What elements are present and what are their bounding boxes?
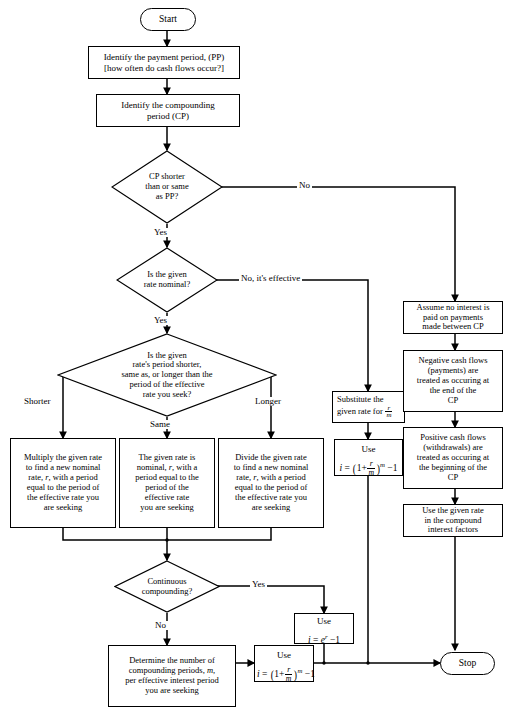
d1-line2: than or same xyxy=(145,181,188,191)
divide-line1: Divide the given rate xyxy=(235,452,307,462)
same-line6: you are seeking xyxy=(140,502,193,512)
use-label-right: Use xyxy=(362,444,376,454)
substitute-line2: given rate for rm xyxy=(337,406,393,416)
multiply-line4: equal to the period of xyxy=(27,482,100,492)
identify-pp-line2: [how often do cash flows occur?] xyxy=(104,63,224,73)
same-line3: period equal to the xyxy=(135,472,199,482)
multiply-line5: the effective rate you xyxy=(27,492,99,502)
determine-line2: compounding periods, m, xyxy=(129,665,215,675)
positive-line3: treated as occuring at xyxy=(417,452,489,462)
decision-rate-period-label: Is the given rate's period shorter, same… xyxy=(57,333,277,417)
determine-line4: you are seeking xyxy=(145,685,198,695)
use-effective-rate-formula-box-bottom: Use i = (1+rm)m −1 xyxy=(254,645,314,682)
determine-compounding-periods-box: Determine the number of compounding peri… xyxy=(108,645,236,707)
d4-line2: compounding? xyxy=(142,586,193,596)
given-rate-is-nominal-box: The given rate is nominal, r, with a per… xyxy=(119,438,215,528)
use-label-bottom: Use xyxy=(277,650,291,660)
edge-label-yes-cp-pp: Yes xyxy=(152,228,169,237)
identify-compounding-period-box: Identify the compounding period (CP) xyxy=(96,94,240,127)
use-given-line3: interest factors xyxy=(428,524,478,534)
substitute-given-rate-box: Substitute the given rate for rm xyxy=(332,391,405,423)
same-line1: The given rate is xyxy=(139,452,196,462)
multiply-given-rate-box: Multiply the given rate to find a new no… xyxy=(10,438,116,528)
edge-label-no-continuous: No xyxy=(153,621,168,630)
same-line5: effective rate xyxy=(145,492,189,502)
d3-line3: same as, or longer than the xyxy=(121,369,212,379)
decision-cp-shorter-label: CP shorter than or same as PP? xyxy=(111,150,223,224)
use-effective-rate-formula-box-right: Use i = (1+rm)m −1 xyxy=(334,439,403,476)
decision-continuous-compounding: Continuous compounding? xyxy=(114,560,220,613)
d2-line2: rate nominal? xyxy=(144,279,191,289)
edge-label-yes-nominal: Yes xyxy=(152,316,169,325)
stop-terminator: Stop xyxy=(440,652,495,675)
edge-label-same: Same xyxy=(148,420,172,429)
decision-rate-nominal: Is the given rate nominal? xyxy=(116,247,218,313)
d3-line1: Is the given xyxy=(147,350,187,360)
stop-label: Stop xyxy=(459,658,476,669)
formula-effective-rate-right: i = (1+rm)m −1 xyxy=(340,463,398,473)
positive-line5: CP xyxy=(448,472,458,482)
positive-line2: (withdrawals) are xyxy=(423,442,483,452)
edge-label-no-its-effective: No, it's effective xyxy=(239,274,302,283)
negative-line1: Negative cash flows xyxy=(419,355,488,365)
identify-pp-line1: Identify the payment period, (PP) xyxy=(104,52,225,62)
determine-line1: Determine the number of xyxy=(129,655,215,665)
fraction-r-over-m: rm xyxy=(385,405,392,420)
negative-line5: CP xyxy=(448,395,458,405)
multiply-line1: Multiply the given rate xyxy=(24,452,102,462)
decision-cp-shorter-than-pp: CP shorter than or same as PP? xyxy=(111,150,223,224)
divide-line6: are seeking xyxy=(252,502,290,512)
decision-rate-period-comparison: Is the given rate's period shorter, same… xyxy=(57,333,277,417)
d1-line3: as PP? xyxy=(156,191,178,201)
same-line2: nominal, r, with a xyxy=(137,462,198,472)
start-terminator: Start xyxy=(140,8,196,31)
multiply-line6: are seeking xyxy=(44,502,82,512)
determine-line3: per effective interest period xyxy=(125,675,219,685)
d1-line1: CP shorter xyxy=(149,171,185,181)
divide-line4: equal to the period of xyxy=(235,482,308,492)
negative-line4: the end of the xyxy=(430,385,477,395)
divide-given-rate-box: Divide the given rate to find a new nomi… xyxy=(218,438,324,528)
formula-effective-rate-bottom: i = (1+rm)m −1 xyxy=(257,669,315,679)
identify-cp-line2: period (CP) xyxy=(147,111,189,121)
edge-label-longer: Longer xyxy=(253,397,283,406)
d2-line1: Is the given xyxy=(147,269,187,279)
positive-cash-flows-box: Positive cash flows (withdrawals) are tr… xyxy=(403,427,503,489)
decision-rate-nominal-label: Is the given rate nominal? xyxy=(116,247,218,313)
divide-line5: the effective rate you xyxy=(235,492,307,502)
edge-label-shorter: Shorter xyxy=(22,397,53,406)
substitute-line1: Substitute the xyxy=(337,394,384,404)
formula-continuous-rate: i = er −1 xyxy=(308,635,340,645)
start-label: Start xyxy=(159,14,177,25)
same-line4: period of the xyxy=(145,482,188,492)
d3-line4: period of the effective xyxy=(129,379,204,389)
d3-line2: rate's period shorter, xyxy=(133,359,202,369)
d4-line1: Continuous xyxy=(147,576,186,586)
multiply-line2: to find a new nominal xyxy=(26,462,101,472)
divide-line3: rate, r, with a period xyxy=(236,472,305,482)
positive-line1: Positive cash flows xyxy=(420,432,486,442)
multiply-line3: rate, r, with a period xyxy=(28,472,97,482)
identify-payment-period-box: Identify the payment period, (PP) [how o… xyxy=(88,46,240,79)
d3-line5: rate you seek? xyxy=(143,389,192,399)
edge-label-no-cp-pp: No xyxy=(297,181,312,190)
negative-line2: (payments) are xyxy=(428,365,479,375)
assume-line1: Assume no interest is xyxy=(417,302,490,312)
negative-cash-flows-box: Negative cash flows (payments) are treat… xyxy=(403,350,503,412)
identify-cp-line1: Identify the compounding xyxy=(121,100,214,110)
use-continuous-formula-box: Use i = er −1 xyxy=(294,613,354,644)
decision-continuous-label: Continuous compounding? xyxy=(114,560,220,613)
assume-line3: made between CP xyxy=(422,321,483,331)
divide-line2: to find a new nominal xyxy=(234,462,309,472)
positive-line4: the beginning of the xyxy=(419,462,487,472)
assume-no-interest-box: Assume no interest is paid on payments m… xyxy=(403,301,503,334)
use-given-line2: in the compound xyxy=(424,515,481,525)
edge-label-yes-continuous: Yes xyxy=(250,580,267,589)
assume-line2: paid on payments xyxy=(423,312,483,322)
use-given-rate-compound-factors-box: Use the given rate in the compound inter… xyxy=(403,504,503,537)
negative-line3: treated as occuring at xyxy=(417,375,489,385)
use-label-continuous: Use xyxy=(317,616,331,626)
use-given-line1: Use the given rate xyxy=(422,505,484,515)
flowchart-canvas: Start Identify the payment period, (PP) … xyxy=(0,0,513,719)
